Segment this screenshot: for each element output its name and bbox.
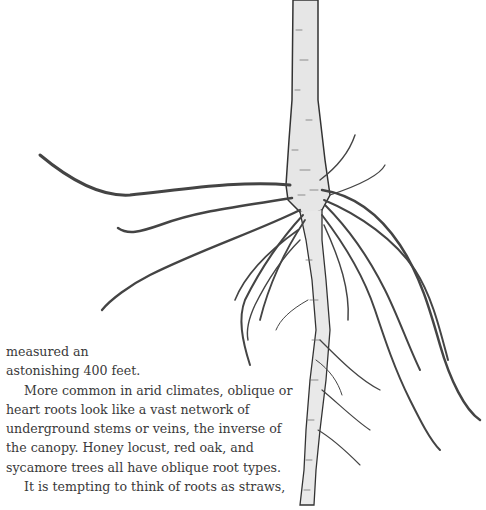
paragraph-2: More common in arid climates, oblique or… <box>6 381 306 477</box>
paragraph-1-line-1: measured an <box>6 342 306 361</box>
body-text: measured an astonishing 400 feet. More c… <box>6 342 306 496</box>
paragraph-3: It is tempting to think of roots as stra… <box>6 477 306 496</box>
paragraph-1-line-2: astonishing 400 feet. <box>6 361 306 380</box>
